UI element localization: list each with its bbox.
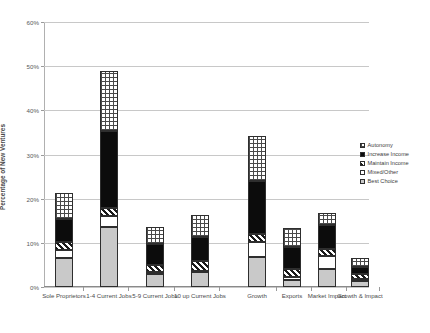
legend-swatch-autonomy [360, 143, 365, 148]
legend-swatch-best-choice [360, 179, 365, 184]
bar-segment [318, 249, 336, 256]
bar-segment [191, 261, 209, 271]
bar-segment [318, 213, 336, 225]
bar-segment [55, 219, 73, 242]
bar-segment [351, 267, 369, 274]
x-tick-mark [219, 287, 220, 291]
y-tick-label: 40% [5, 107, 39, 114]
bar-segment [55, 250, 73, 258]
legend-item-autonomy: Autonomy [360, 142, 430, 148]
bar-segment [248, 181, 266, 234]
bar-segment [146, 227, 164, 244]
bar-segment [146, 272, 164, 274]
bar-segment [146, 244, 164, 265]
bar-segment [55, 193, 73, 219]
bar-segment [318, 269, 336, 287]
bar-segment [100, 131, 118, 208]
x-tick-mark [311, 287, 312, 291]
y-tick-mark [41, 287, 44, 288]
bar-segment [191, 272, 209, 287]
legend-label-best-choice: Best Choice [368, 178, 398, 184]
bar-segment [55, 242, 73, 250]
x-tick-mark [379, 287, 380, 291]
bar-segment [351, 258, 369, 267]
bar-segment [191, 215, 209, 237]
legend-label-autonomy: Autonomy [368, 142, 393, 148]
y-tick-label: 0% [5, 284, 39, 291]
stacked-bar-chart: Percentage of New Ventures 0%10%20%30%40… [0, 0, 430, 333]
x-tick-mark [128, 287, 129, 291]
bar-segment [146, 265, 164, 272]
legend-item-mixed-other: Mixed/Other [360, 169, 430, 175]
y-tick-mark [41, 66, 44, 67]
bar-segment [100, 216, 118, 226]
chart-legend: Autonomy Increase Income Maintain Income… [360, 142, 430, 187]
bar-segment [351, 279, 369, 282]
bar-segment [248, 234, 266, 242]
legend-label-mixed-other: Mixed/Other [368, 169, 398, 175]
bar-segment [283, 247, 301, 269]
y-tick-mark [41, 22, 44, 23]
bar-stack [318, 22, 336, 287]
bar-segment [248, 136, 266, 181]
y-tick-mark [41, 155, 44, 156]
bar-segment [283, 277, 301, 280]
y-tick-mark [41, 199, 44, 200]
bar-segment [283, 269, 301, 277]
bar-stack [146, 22, 164, 287]
bar-segment [283, 228, 301, 247]
x-tick-mark [346, 287, 347, 291]
legend-swatch-increase-income [360, 152, 365, 157]
bar-segment [100, 208, 118, 216]
x-tick-mark [276, 287, 277, 291]
y-tick-label: 60% [5, 19, 39, 26]
legend-swatch-maintain-income [360, 161, 365, 166]
y-tick-mark [41, 110, 44, 111]
legend-label-increase-income: Increase Income [368, 151, 409, 157]
x-axis-category-label: 10 up Current Jobs [173, 292, 227, 300]
y-tick-mark [41, 243, 44, 244]
bar-stack [100, 22, 118, 287]
legend-label-maintain-income: Maintain Income [368, 160, 409, 166]
bar-stack [55, 22, 73, 287]
bar-stack [283, 22, 301, 287]
bar-segment [55, 258, 73, 287]
bar-segment [351, 274, 369, 279]
x-tick-mark [174, 287, 175, 291]
legend-swatch-mixed-other [360, 170, 365, 175]
bar-stack [248, 22, 266, 287]
bar-segment [191, 237, 209, 261]
bar-stack [191, 22, 209, 287]
legend-item-best-choice: Best Choice [360, 178, 430, 184]
bar-segment [351, 281, 369, 287]
bar-segment [100, 71, 118, 132]
bar-segment [283, 280, 301, 287]
y-tick-label: 10% [5, 239, 39, 246]
bar-segment [100, 227, 118, 288]
y-tick-label: 50% [5, 63, 39, 70]
x-tick-mark [83, 287, 84, 291]
bar-segment [248, 257, 266, 287]
y-tick-label: 30% [5, 151, 39, 158]
x-axis-category-label: Growth & Impact [333, 292, 387, 300]
legend-item-maintain-income: Maintain Income [360, 160, 430, 166]
bar-segment [318, 256, 336, 269]
bar-segment [146, 274, 164, 287]
legend-item-increase-income: Increase Income [360, 151, 430, 157]
bar-segment [318, 225, 336, 249]
y-tick-label: 20% [5, 195, 39, 202]
bar-segment [248, 242, 266, 257]
gridline [44, 287, 369, 288]
